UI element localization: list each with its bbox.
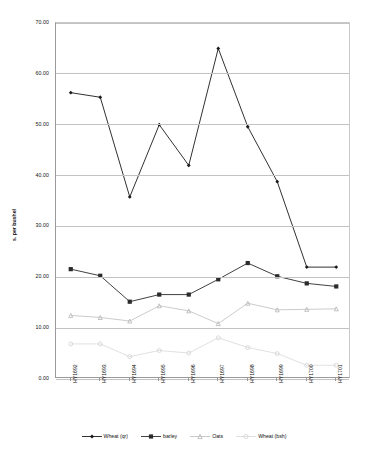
data-point bbox=[128, 195, 132, 199]
legend-swatch-square-icon bbox=[141, 433, 161, 440]
y-axis-tick-label: 10.00 bbox=[0, 324, 49, 330]
data-point bbox=[334, 265, 338, 269]
data-point bbox=[187, 292, 191, 296]
legend-item[interactable]: Wheat (qr) bbox=[82, 433, 129, 440]
legend-label: Wheat (bsh) bbox=[258, 433, 286, 439]
y-axis-tick-label: 50.00 bbox=[0, 121, 49, 127]
x-axis-tick-label: HY1697 bbox=[219, 364, 225, 383]
x-axis-tick-label: HY1694 bbox=[131, 364, 137, 383]
data-point bbox=[275, 180, 279, 184]
series-layer bbox=[56, 23, 351, 379]
series-line bbox=[71, 263, 337, 302]
chart-legend: Wheat (qr)barleyOatsWheat (bsh) bbox=[0, 428, 368, 444]
y-axis-tick-label: 70.00 bbox=[0, 19, 49, 25]
x-axis-tick-label: HY1700 bbox=[308, 364, 314, 383]
x-axis-tick-label: HY1701 bbox=[337, 364, 343, 383]
data-point bbox=[216, 47, 220, 51]
x-axis-tick-mark bbox=[306, 378, 307, 381]
x-axis-tick-label: HY1698 bbox=[249, 364, 255, 383]
y-axis-tick-label: 40.00 bbox=[0, 172, 49, 178]
gridline bbox=[56, 73, 349, 74]
data-point bbox=[98, 95, 102, 99]
data-point bbox=[246, 125, 250, 129]
legend-label: barley bbox=[163, 433, 177, 439]
legend-item[interactable]: Wheat (bsh) bbox=[236, 433, 286, 440]
legend-swatch-diamond-icon bbox=[82, 433, 102, 440]
gridline bbox=[56, 328, 349, 329]
legend-item[interactable]: Oats bbox=[190, 433, 223, 440]
data-point bbox=[69, 91, 73, 95]
plot-area bbox=[55, 22, 350, 378]
x-axis-tick-label: HY1693 bbox=[101, 364, 107, 383]
data-point bbox=[216, 277, 220, 281]
x-axis-tick-mark bbox=[247, 378, 248, 381]
y-axis-tick-label: 0.00 bbox=[0, 375, 49, 381]
series-wheat-bsh bbox=[69, 336, 339, 367]
gridline bbox=[56, 23, 349, 24]
legend-swatch-circle-icon bbox=[236, 433, 256, 440]
series-line bbox=[71, 338, 337, 365]
legend-label: Oats bbox=[212, 433, 223, 439]
series-wheat-qr bbox=[69, 47, 338, 269]
x-axis-tick-label: HY1699 bbox=[278, 364, 284, 383]
gridline bbox=[56, 277, 349, 278]
series-line bbox=[71, 303, 337, 323]
x-axis-tick-label: HY1692 bbox=[72, 364, 78, 383]
series-oats bbox=[69, 301, 339, 325]
x-axis-tick-label: HY1695 bbox=[160, 364, 166, 383]
gridline bbox=[56, 124, 349, 125]
data-point bbox=[128, 300, 132, 304]
data-point bbox=[69, 313, 73, 317]
chart-root: s. per bushel 0.0010.0020.0030.0040.0050… bbox=[0, 0, 368, 449]
gridline bbox=[56, 175, 349, 176]
y-axis-tick-label: 20.00 bbox=[0, 273, 49, 279]
x-axis-tick-mark bbox=[70, 378, 71, 381]
x-axis-tick-mark bbox=[188, 378, 189, 381]
x-axis-tick-mark bbox=[129, 378, 130, 381]
data-point bbox=[246, 261, 250, 265]
data-point bbox=[334, 307, 338, 311]
legend-swatch-triangle-icon bbox=[190, 433, 210, 440]
gridline bbox=[56, 226, 349, 227]
data-point bbox=[334, 284, 338, 288]
series-line bbox=[71, 48, 337, 267]
series-barley bbox=[69, 261, 339, 304]
x-axis-tick-label: HY1696 bbox=[190, 364, 196, 383]
y-axis-tick-label: 60.00 bbox=[0, 70, 49, 76]
y-axis-tick-label: 30.00 bbox=[0, 222, 49, 228]
data-point bbox=[305, 265, 309, 269]
legend-item[interactable]: barley bbox=[141, 433, 177, 440]
legend-label: Wheat (qr) bbox=[104, 433, 129, 439]
data-point bbox=[69, 267, 73, 271]
data-point bbox=[305, 281, 309, 285]
data-point bbox=[157, 292, 161, 296]
